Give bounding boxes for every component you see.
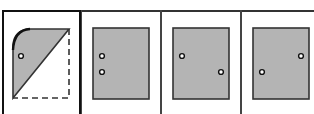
hole-icon [219,70,224,75]
option-4[interactable] [253,28,309,99]
hole-icon [299,54,304,59]
hole-icon [260,70,265,75]
hole-icon [100,54,105,59]
options-figures [0,0,314,114]
option-2[interactable] [93,28,149,99]
option-1[interactable] [13,29,69,98]
paper-sheet [253,28,309,99]
hole-icon [100,70,105,75]
option-3[interactable] [173,28,229,99]
folded-triangle [13,29,69,98]
paper-sheet [93,28,149,99]
paper-sheet [173,28,229,99]
hole-icon [19,54,24,59]
hole-icon [180,54,185,59]
